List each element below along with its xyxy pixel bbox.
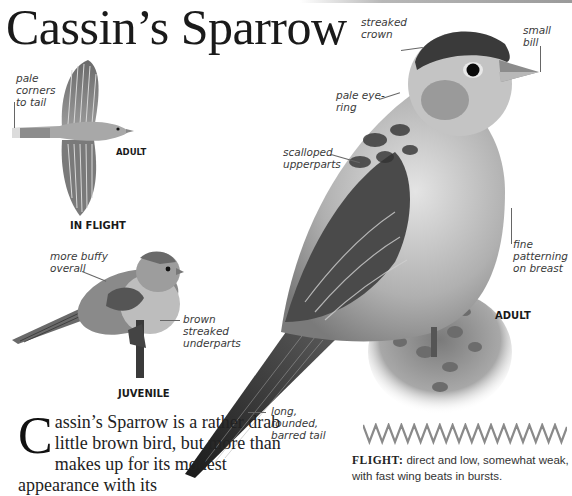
intro-text: assin’s Sparrow is a rather drab little …: [18, 412, 281, 495]
leader-line: [14, 102, 15, 128]
leader-line: [540, 46, 541, 72]
label-fine-patterning: fine patterning on breast: [513, 238, 568, 274]
leader-line: [160, 320, 180, 321]
intro-paragraph: Cassin’s Sparrow is a rather drab little…: [18, 412, 283, 496]
caption-in-flight: IN FLIGHT: [70, 220, 126, 231]
label-pale-eye-ring: pale eye- ring: [336, 89, 385, 113]
label-streaked-crown: streaked crown: [361, 16, 407, 40]
caption-adult: ADULT: [495, 310, 531, 321]
label-scalloped-upperparts: scalloped upperparts: [283, 146, 341, 170]
flight-label: FLIGHT:: [352, 454, 403, 466]
label-pale-corners: pale corners to tail: [16, 72, 55, 108]
flight-description: FLIGHT: direct and low, somewhat weak, w…: [352, 452, 572, 484]
flight-pattern-zigzag: [363, 423, 567, 445]
drop-cap: C: [18, 416, 53, 456]
caption-juvenile: JUVENILE: [118, 388, 170, 399]
label-small-bill: small bill: [523, 24, 551, 48]
caption-adult-flight: ADULT: [116, 147, 146, 157]
label-more-buffy: more buffy overall: [50, 250, 108, 274]
leader-line: [511, 208, 512, 244]
